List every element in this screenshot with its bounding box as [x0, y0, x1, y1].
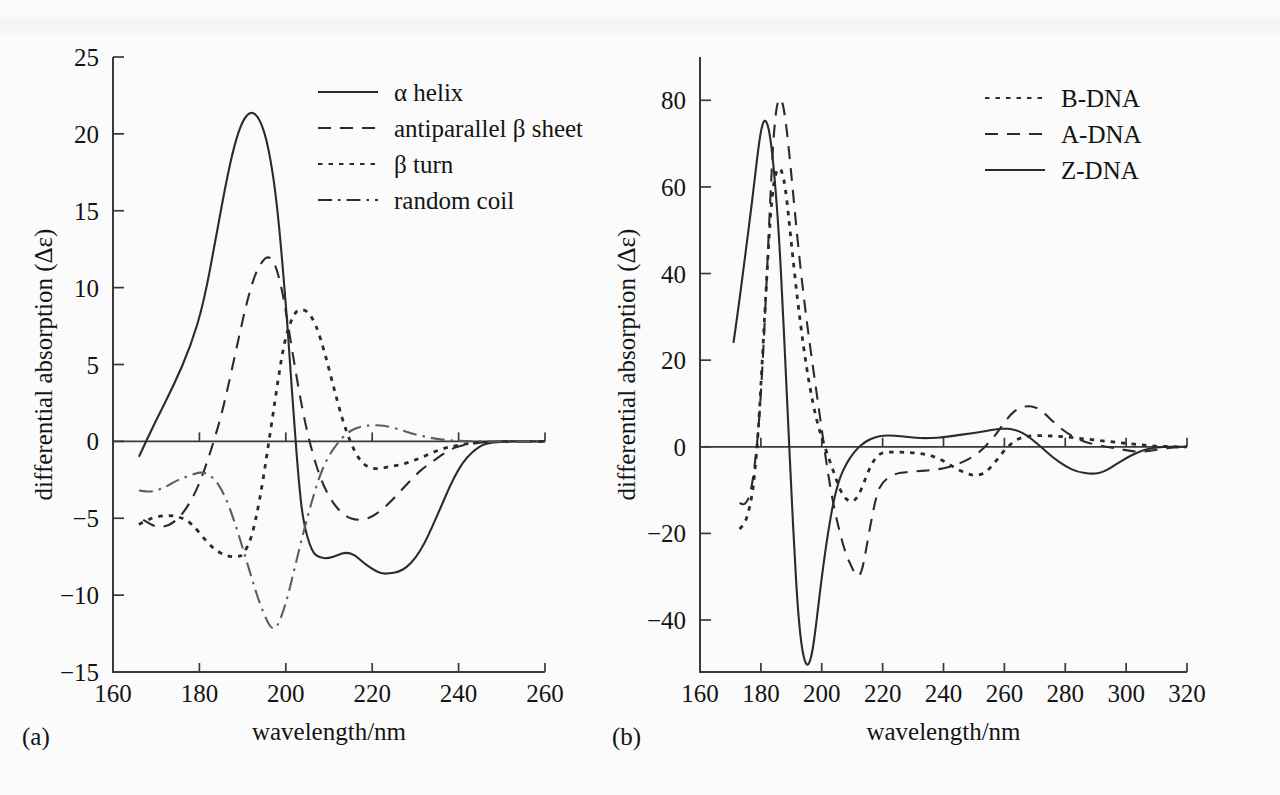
series-curve-z-dna	[733, 121, 1187, 665]
x-tick-label: 160	[94, 680, 132, 707]
x-tick-label: 300	[1107, 680, 1145, 707]
scan-band	[0, 17, 640, 33]
y-tick-label: 80	[661, 87, 686, 114]
x-tick-label: 220	[353, 680, 391, 707]
x-tick-label: 320	[1168, 680, 1206, 707]
legend-label: random coil	[394, 187, 514, 214]
y-tick-label: 5	[87, 352, 100, 379]
x-tick-label: 180	[181, 680, 219, 707]
x-tick-label: 240	[925, 680, 963, 707]
y-tick-label: 40	[661, 261, 686, 288]
legend-label: antiparallel β sheet	[394, 115, 583, 142]
figure-canvas: 1601802002202402602520151050−5−10−15wave…	[0, 0, 1280, 795]
x-tick-label: 260	[986, 680, 1024, 707]
series-curve-b-dna	[740, 169, 1187, 530]
panel-tag: (b)	[612, 723, 641, 751]
x-tick-label: 240	[440, 680, 478, 707]
y-tick-label: 15	[74, 198, 99, 225]
x-tick-label: 180	[742, 680, 780, 707]
y-axis-title: differential absorption (Δε)	[613, 229, 641, 501]
x-tick-label: 160	[681, 680, 719, 707]
x-axis-title: wavelength/nm	[866, 718, 1021, 745]
scan-band	[640, 17, 1280, 33]
panel-tag: (a)	[22, 723, 50, 751]
series-curve--helix	[139, 113, 545, 574]
legend-label: Z-DNA	[1061, 157, 1139, 184]
y-tick-label: 0	[674, 434, 687, 461]
x-axis-title: wavelength/nm	[252, 718, 407, 745]
legend-label: A-DNA	[1061, 121, 1142, 148]
x-tick-label: 260	[526, 680, 564, 707]
y-tick-label: −20	[647, 520, 686, 547]
y-tick-label: 25	[74, 44, 99, 71]
panel-a: 1601802002202402602520151050−5−10−15wave…	[0, 0, 640, 795]
panel-b: 160180200220240260280300320806040200−20−…	[640, 0, 1280, 795]
x-tick-label: 220	[864, 680, 902, 707]
y-axis-title: differential absorption (Δε)	[30, 229, 58, 501]
legend-label: β turn	[394, 151, 454, 178]
axis-frame	[113, 57, 545, 672]
legend-label: B-DNA	[1061, 85, 1140, 112]
panel-b-plot: 160180200220240260280300320806040200−20−…	[570, 0, 1280, 795]
x-tick-label: 200	[803, 680, 841, 707]
y-tick-label: 0	[87, 428, 100, 455]
panel-a-plot: 1601802002202402602520151050−5−10−15wave…	[0, 0, 640, 795]
y-tick-label: 20	[74, 121, 99, 148]
y-tick-label: −15	[60, 659, 99, 686]
legend-label: α helix	[394, 79, 464, 106]
y-tick-label: 20	[661, 347, 686, 374]
series-curve-random-coil	[139, 425, 545, 628]
y-tick-label: 10	[74, 275, 99, 302]
y-tick-label: −10	[60, 582, 99, 609]
x-tick-label: 200	[267, 680, 305, 707]
y-tick-label: 60	[661, 174, 686, 201]
y-tick-label: −40	[647, 607, 686, 634]
y-tick-label: −5	[72, 505, 99, 532]
x-tick-label: 280	[1047, 680, 1085, 707]
